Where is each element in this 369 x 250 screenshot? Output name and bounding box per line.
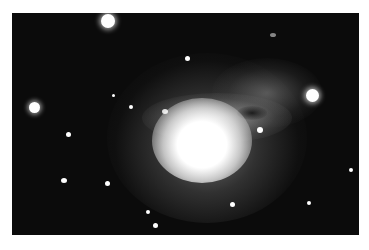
- star: [185, 56, 190, 61]
- star: [112, 94, 115, 97]
- star: [29, 102, 40, 113]
- star: [101, 14, 115, 28]
- star: [61, 178, 67, 183]
- star: [153, 223, 158, 228]
- star: [257, 127, 263, 133]
- star: [230, 202, 235, 207]
- star: [306, 89, 319, 102]
- star: [162, 109, 168, 114]
- star: [349, 168, 353, 172]
- star: [105, 181, 110, 186]
- star: [307, 201, 311, 205]
- star: [66, 132, 71, 137]
- star: [129, 105, 133, 109]
- star: [146, 210, 150, 214]
- star: [270, 33, 276, 37]
- galaxy-photo: [12, 13, 359, 235]
